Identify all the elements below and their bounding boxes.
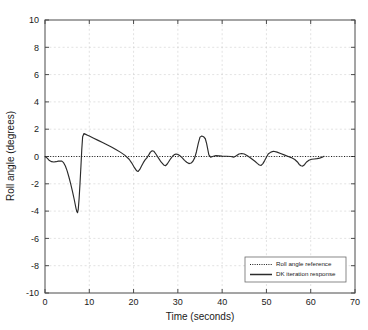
y-tick-label: 6 [34, 70, 39, 80]
x-tick-label: 60 [306, 297, 316, 307]
legend-label: DK iteration response [276, 270, 336, 277]
x-tick-label: 40 [217, 297, 227, 307]
data-series [45, 134, 355, 213]
y-tick-label: 8 [34, 43, 39, 53]
x-axis-title: Time (seconds) [166, 311, 235, 322]
legend: Roll angle referenceDK iteration respons… [245, 257, 346, 282]
y-tick-label: -4 [31, 206, 39, 216]
y-tick-label: 10 [29, 15, 39, 25]
series-solid [45, 134, 324, 213]
y-tick-label: 4 [34, 97, 39, 107]
legend-label: Roll angle reference [276, 260, 332, 267]
roll-angle-line-chart: 0102030405060701086420-2-4-6-8-10 Time (… [0, 0, 368, 330]
x-tick-label: 20 [129, 297, 139, 307]
x-tick-label: 50 [261, 297, 271, 307]
x-tick-label: 10 [84, 297, 94, 307]
y-axis-title: Roll angle (degrees) [5, 111, 16, 201]
y-tick-label: -6 [31, 234, 39, 244]
x-tick-label: 30 [173, 297, 183, 307]
x-tick-label: 70 [350, 297, 360, 307]
x-tick-label: 0 [42, 297, 47, 307]
y-tick-label: 2 [34, 124, 39, 134]
y-tick-label: -10 [26, 288, 39, 298]
y-tick-label: -8 [31, 261, 39, 271]
y-tick-label: -2 [31, 179, 39, 189]
y-tick-label: 0 [34, 152, 39, 162]
chart-figure: 0102030405060701086420-2-4-6-8-10 Time (… [0, 0, 368, 330]
